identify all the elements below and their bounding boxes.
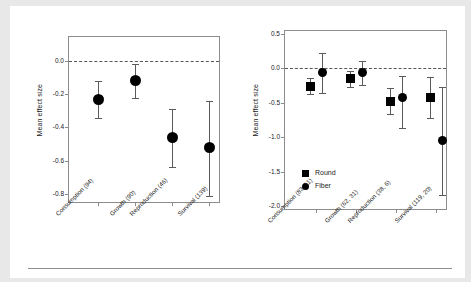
error-cap-upper-left-1 (132, 64, 139, 65)
error-cap-lower-left-2 (169, 167, 176, 168)
y-tick-label-left-0: 0.0 (46, 57, 64, 64)
y-tick-label-right-1: 0.0 (260, 64, 280, 71)
error-cap-upper-right-fiber-3 (439, 87, 446, 88)
data-point-right-round-1 (346, 74, 355, 83)
error-cap-lower-right-fiber-3 (439, 195, 446, 196)
y-tick-label-right-4: -1.5 (260, 168, 280, 175)
data-point-right-fiber-1 (358, 68, 367, 77)
error-cap-upper-left-2 (169, 109, 176, 110)
figure-card: Mean effect size 0.0 -0.2 -0.4 -0.6 -0.8 (10, 6, 465, 278)
error-cap-lower-right-fiber-1 (359, 85, 366, 86)
data-point-right-fiber-2 (398, 93, 407, 102)
data-point-left-1 (130, 75, 141, 86)
figure-canvas: Mean effect size 0.0 -0.2 -0.4 -0.6 -0.8 (10, 6, 465, 278)
error-cap-lower-right-round-0 (307, 94, 314, 95)
error-cap-lower-right-fiber-2 (399, 128, 406, 129)
y-tick-label-left-4: -0.8 (46, 190, 64, 197)
error-cap-upper-right-fiber-0 (319, 53, 326, 54)
error-cap-lower-left-1 (132, 98, 139, 99)
error-cap-upper-right-fiber-1 (359, 61, 366, 62)
error-cap-lower-right-round-3 (427, 118, 434, 119)
y-axis-label-left: Mean effect size (36, 84, 43, 136)
x-tick-mark-right-2 (396, 210, 397, 213)
x-tick-mark-right-3 (436, 210, 437, 213)
y-tick-label-left-3: -0.6 (46, 157, 64, 164)
footer-divider (28, 268, 452, 269)
y-tick-label-right-3: -1.0 (260, 133, 280, 140)
chart-panel-left: Mean effect size 0.0 -0.2 -0.4 -0.6 -0.8 (20, 6, 235, 278)
error-cap-lower-left-3 (206, 196, 213, 197)
data-point-left-3 (204, 142, 215, 153)
data-point-right-round-3 (426, 93, 435, 102)
error-cap-lower-right-round-2 (387, 114, 394, 115)
y-tick-label-right-2: -0.5 (260, 99, 280, 106)
legend-label-fiber: Fiber (315, 182, 331, 189)
error-cap-upper-left-0 (95, 81, 102, 82)
x-tick-mark-left-2 (172, 203, 173, 206)
data-point-right-fiber-3 (438, 136, 447, 145)
error-cap-lower-right-fiber-0 (319, 93, 326, 94)
error-cap-upper-left-3 (206, 101, 213, 102)
legend-label-round: Round (315, 169, 336, 176)
error-cap-upper-right-round-2 (387, 88, 394, 89)
zero-reference-line-left (69, 61, 219, 62)
chart-panel-right: Mean effect size 0.5 0.0 -0.5 -1.0 -1.5 … (238, 6, 465, 278)
x-tick-mark-left-3 (209, 203, 210, 206)
error-cap-upper-right-round-0 (307, 78, 314, 79)
error-cap-lower-right-round-1 (347, 87, 354, 88)
x-tick-mark-right-0 (316, 210, 317, 213)
y-axis-label-right: Mean effect size (252, 84, 259, 136)
y-tick-label-left-2: -0.4 (46, 123, 64, 130)
x-tick-mark-left-0 (98, 203, 99, 206)
error-cap-upper-right-round-3 (427, 77, 434, 78)
data-point-left-2 (167, 132, 178, 143)
data-point-left-0 (93, 94, 104, 105)
error-cap-upper-right-round-1 (347, 71, 354, 72)
figure-page: Mean effect size 0.0 -0.2 -0.4 -0.6 -0.8 (0, 0, 471, 282)
y-tick-label-left-1: -0.2 (46, 90, 64, 97)
error-bar-right-fiber-2 (402, 76, 403, 128)
data-point-right-round-2 (386, 97, 395, 106)
data-point-right-fiber-0 (318, 68, 327, 77)
data-point-right-round-0 (306, 82, 315, 91)
y-tick-label-right-0: 0.5 (260, 30, 280, 37)
error-cap-lower-left-0 (95, 118, 102, 119)
error-cap-upper-right-fiber-2 (399, 76, 406, 77)
